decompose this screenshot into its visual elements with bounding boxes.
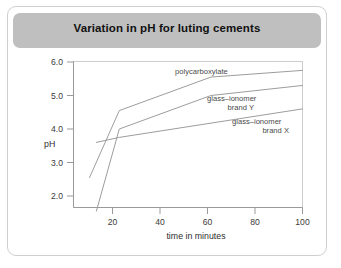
series-label-brand-x-line1: glass–ionomer [232,117,282,126]
y-tick-label-6: 6.0 [51,57,63,67]
x-tick-label-20: 20 [108,217,118,227]
x-tick-label-100: 100 [295,217,310,227]
y-tick-label-5: 5.0 [51,91,63,101]
series-label-brand-y-line1: glass–ionomer [207,94,257,103]
y-tick-label-3: 3.0 [51,158,63,168]
series-label-brand-y-line2: brand Y [228,103,254,112]
x-tick-label-60: 60 [203,217,213,227]
x-axis-title: time in minutes [166,231,226,241]
y-tick-label-2: 2.0 [51,191,63,201]
series-label-brand-x-line2: brand X [262,126,289,135]
x-tick-label-40: 40 [155,217,165,227]
chart-plot-area: 6.0 5.0 4.0 3.0 2.0 pH 20 40 60 80 100 t… [0,0,341,268]
x-tick-label-80: 80 [250,217,260,227]
y-tick-label-4: 4.0 [51,124,63,134]
y-axis-title: pH [44,139,55,149]
series-label-polycarboxylate: polycarboxylate [175,67,228,76]
